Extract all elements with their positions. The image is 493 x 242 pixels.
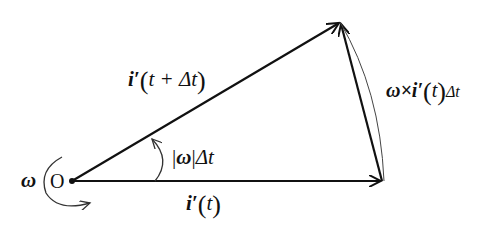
label-suffix: Δt [446,83,460,100]
label-difference: ω×i′(t)Δt [386,79,460,105]
omega-label: ω [21,170,36,191]
angle-omega: ω [176,145,191,169]
omega-symbol: ω [21,168,36,192]
label-arg: t + Δt [148,67,197,91]
origin-point [69,178,75,184]
label-base: i′ [186,191,198,215]
label-i-prime-t: i′(t) [186,192,221,218]
label-base: i′ [412,79,423,101]
origin-label: O [50,171,64,191]
origin-letter: O [50,170,64,192]
vector-diagram [0,0,493,242]
vector-difference [341,24,382,181]
angle-arc [152,139,163,181]
angle-suffix: Δt [196,145,214,169]
label-i-prime-t-plus-dt: i′(t + Δt) [128,68,206,94]
label-angle: |ω|Δt [172,147,214,168]
label-prefix: ω× [386,79,412,101]
label-base: i′ [128,67,140,91]
